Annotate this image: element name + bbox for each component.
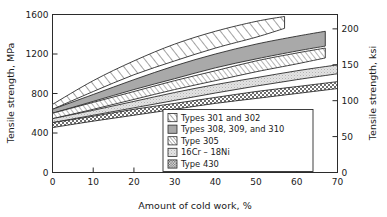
y-tick-label-right: 150	[342, 60, 359, 70]
legend-swatch	[168, 160, 177, 168]
legend: Types 301 and 302Types 308, 309, and 310…	[163, 110, 313, 172]
legend-swatch	[168, 125, 177, 133]
legend-swatch	[168, 114, 177, 122]
legend-label: 16Cr – 18Ni	[181, 147, 230, 157]
legend-label: Types 301 and 302	[180, 113, 260, 123]
y-tick-label: 1200	[26, 49, 49, 59]
legend-label: Type 430	[180, 159, 219, 169]
y-tick-label-right: 50	[342, 132, 354, 142]
y-tick-label-right: 200	[342, 24, 359, 34]
legend-swatch	[168, 137, 177, 145]
x-tick-label: 50	[250, 177, 262, 187]
y-tick-label-right: 100	[342, 96, 359, 106]
y-axis-left-title: Tensile strength, MPa	[5, 43, 16, 145]
legend-swatch	[168, 148, 177, 156]
x-tick-label: 60	[291, 177, 303, 187]
y-tick-label: 1600	[26, 10, 49, 20]
x-tick-label: 20	[128, 177, 140, 187]
y-tick-label: 0	[43, 168, 49, 178]
y-axis-right-title: Tensile strength, ksi	[367, 46, 378, 141]
figure: 040080012001600 050100150200 01020304050…	[0, 0, 387, 217]
x-tick-label: 30	[169, 177, 181, 187]
legend-label: Type 305	[180, 136, 219, 146]
x-tick-label: 10	[87, 177, 99, 187]
x-axis-title: Amount of cold work, %	[138, 200, 251, 211]
x-tick-label: 40	[210, 177, 222, 187]
chart-canvas: 040080012001600 050100150200 01020304050…	[0, 0, 387, 217]
x-tick-label: 70	[332, 177, 344, 187]
y-tick-label: 800	[31, 89, 48, 99]
x-tick-label: 0	[50, 177, 56, 187]
legend-label: Types 308, 309, and 310	[180, 124, 284, 134]
y-tick-label: 400	[31, 128, 48, 138]
